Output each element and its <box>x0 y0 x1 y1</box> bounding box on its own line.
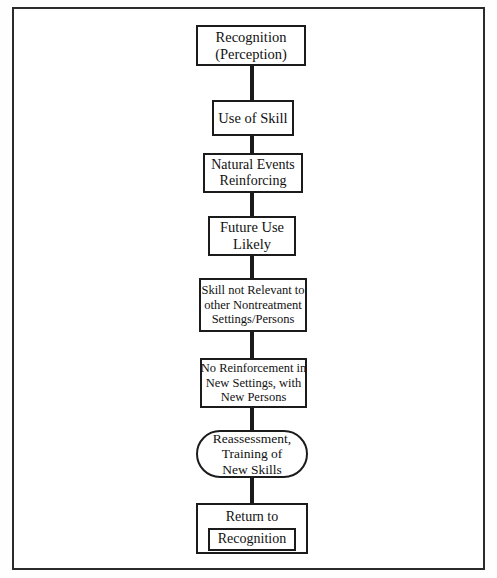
page-canvas: Recognition (Perception) Use of Skill Na… <box>0 0 497 578</box>
node-text-line: Return to <box>226 509 279 525</box>
node-text-line: New Settings, with <box>206 376 301 391</box>
flow-node-recognition[interactable]: Recognition (Perception) <box>196 25 306 66</box>
node-text-line: Settings/Persons <box>212 312 295 327</box>
flow-node-no-reinforcement[interactable]: No Reinforcement in New Settings, with N… <box>200 358 307 408</box>
node-text-line: Reassessment, <box>213 431 291 447</box>
node-text-line: Likely <box>233 236 271 253</box>
node-text-line: New Skills <box>222 462 282 478</box>
flow-node-natural-events-reinforcing[interactable]: Natural Events Reinforcing <box>203 153 303 193</box>
flow-node-reassessment-training[interactable]: Reassessment, Training of New Skills <box>196 430 308 478</box>
connector-natural-events-to-future-use <box>250 191 254 218</box>
node-text-line: Training of <box>222 446 283 462</box>
connector-skill-not-relevant-to-no-reinforcement <box>250 330 254 360</box>
node-text-line: Skill not Relevant to <box>201 283 304 298</box>
node-text-line: New Persons <box>221 390 287 405</box>
flow-node-skill-not-relevant[interactable]: Skill not Relevant to other Nontreatment… <box>199 278 307 332</box>
flow-node-use-of-skill[interactable]: Use of Skill <box>212 100 294 136</box>
node-text-line: Reinforcing <box>220 173 287 189</box>
connector-reassessment-to-return <box>250 476 254 505</box>
connector-future-use-to-skill-not-relevant <box>250 254 254 280</box>
node-text-line: Natural Events <box>211 157 295 173</box>
node-text-line: Use of Skill <box>218 110 287 127</box>
flow-node-return-to-recognition[interactable]: Return to Recognition <box>196 503 308 554</box>
node-text-line: (Perception) <box>215 46 287 63</box>
flow-node-future-use-likely[interactable]: Future Use Likely <box>208 216 296 256</box>
flowchart: Recognition (Perception) Use of Skill Na… <box>0 0 497 578</box>
node-text-line: No Reinforcement in <box>201 361 307 376</box>
node-inner-box-recognition[interactable]: Recognition <box>208 528 296 550</box>
node-text-line: other Nontreatment <box>204 298 302 313</box>
node-text-line: Recognition <box>216 29 287 46</box>
connector-no-reinforcement-to-reassessment <box>250 406 254 432</box>
connector-use-of-skill-to-natural-events <box>250 134 254 155</box>
node-text-line: Future Use <box>220 219 284 236</box>
connector-recognition-to-use-of-skill <box>250 64 254 102</box>
